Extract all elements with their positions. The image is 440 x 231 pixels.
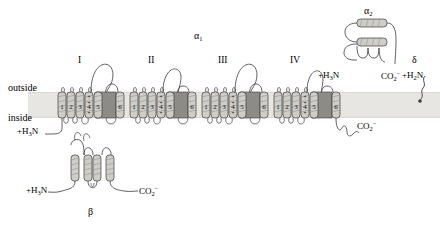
svg-text:2: 2 [285,103,289,111]
svg-text:1: 1 [132,103,136,111]
svg-text:3: 3 [222,103,226,111]
svg-text:3: 3 [150,103,154,111]
svg-text:6: 6 [334,103,338,111]
svg-text:5: 5 [240,103,244,111]
svg-text:2: 2 [141,103,145,111]
beta-c-term-prefix: CO [139,186,152,196]
svg-text:3: 3 [78,103,82,111]
delta-n-terminus: +H2N [402,70,423,81]
svg-text:+: + [231,110,234,116]
delta-n-term-tail: N [417,70,424,80]
delta-label: δ [412,54,417,65]
alpha1-repeat-I: 1 2 3 4 5 6 + + + [58,64,124,124]
alpha2-subscript: 2 [369,10,372,17]
beta-n-term-prefix: +H [26,185,38,195]
alpha1-c-term-sup: − [373,120,377,127]
alpha1-n-terminus: +H3N [17,126,38,137]
svg-text:5: 5 [168,103,172,111]
alpha2-c-term-prefix: CO [381,71,394,81]
beta-c-term-sup: − [155,185,159,192]
alpha1-c-terminus: CO2− [357,120,376,132]
alpha1-subscript: 1 [199,35,202,42]
beta-label: β [88,206,93,217]
alpha1-repeat-II: 1 2 3 4 5 6 + + + [130,69,196,124]
alpha1-n-term-tail: N [32,126,39,136]
svg-text:1: 1 [60,103,64,111]
beta-n-term-tail: N [41,185,48,195]
svg-text:+: + [231,100,234,106]
svg-text:+: + [303,100,306,106]
svg-text:1: 1 [204,103,208,111]
alpha1-n-term-chain [45,118,62,134]
svg-text:2: 2 [69,103,73,111]
alpha2-subunit [344,19,396,64]
channel-diagram: 1 2 3 4 5 6 + + + [0,0,440,231]
repeat-numeral-II: II [148,55,154,65]
alpha1-repeat-III: 1 2 3 4 5 6 + + + [202,64,268,124]
beta-n-terminus: +H3N [26,185,47,196]
svg-text:+: + [159,100,162,106]
beta-c-terminus: CO2− [139,185,158,197]
alpha1-n-term-prefix: +H [17,126,29,136]
outside-label: outside [8,82,37,93]
svg-text:6: 6 [118,103,122,111]
svg-text:+: + [87,110,90,116]
alpha2-c-term-sup: − [397,70,401,77]
alpha1-n-out-prefix: +H [318,70,330,80]
repeat-numeral-IV: IV [290,55,300,65]
svg-text:6: 6 [190,103,194,111]
alpha2-label: α2 [364,5,373,17]
alpha1-n-out-tail: N [333,70,340,80]
svg-text:2: 2 [213,103,217,111]
svg-text:5: 5 [96,103,100,111]
inside-label: inside [8,112,32,123]
delta-n-term-prefix: +H [402,70,414,80]
svg-text:+: + [87,100,90,106]
svg-text:3: 3 [294,103,298,111]
delta-anchor-head [418,99,422,103]
svg-text:+: + [303,110,306,116]
alpha1-label: α1 [194,30,203,42]
figure-canvas: 1 2 3 4 5 6 + + + [0,0,440,231]
alpha2-c-terminus: CO2− [381,70,400,82]
svg-text:5: 5 [312,103,316,111]
beta-subunit [48,133,138,193]
svg-text:6: 6 [262,103,266,111]
svg-text:+: + [159,110,162,116]
repeat-numeral-III: III [218,55,228,65]
alpha1-c-term-prefix: CO [357,121,370,131]
alpha1-n-terminus-outside: +H3N [318,70,339,81]
svg-text:1: 1 [276,103,280,111]
repeat-numeral-I: I [78,55,81,65]
